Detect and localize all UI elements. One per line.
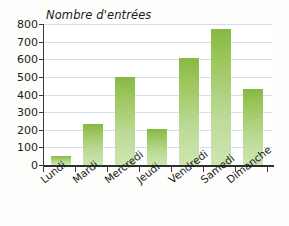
chart-title: Nombre d'entrées [46,8,151,22]
bar-samedi[interactable] [211,29,231,165]
y-tick-label: 400 [2,90,38,101]
y-axis-tick [39,42,44,43]
y-tick-label: 200 [2,125,38,136]
y-axis-tick [39,112,44,113]
bar-chart: Nombre d'entrées 800 700 600 500 [0,0,289,226]
x-axis-tick [267,167,268,172]
y-tick-label: 800 [2,19,38,30]
y-axis-tick [39,147,44,148]
y-tick-label: 700 [2,37,38,48]
bar-vendredi[interactable] [179,58,199,166]
y-axis-tick [39,77,44,78]
y-tick-label: 600 [2,54,38,65]
y-axis-labels: 800 700 600 500 400 300 200 100 0 [0,0,38,226]
y-tick-label: 100 [2,142,38,153]
y-axis-tick [39,24,44,25]
y-axis-tick [39,130,44,131]
bar-jeudi[interactable] [147,129,167,165]
y-axis-tick [39,165,44,166]
bars-layer [43,24,272,165]
y-tick-label: 500 [2,72,38,83]
y-tick-label: 300 [2,107,38,118]
y-axis-tick [39,59,44,60]
y-tick-label: 0 [2,160,38,171]
y-axis-tick [39,95,44,96]
